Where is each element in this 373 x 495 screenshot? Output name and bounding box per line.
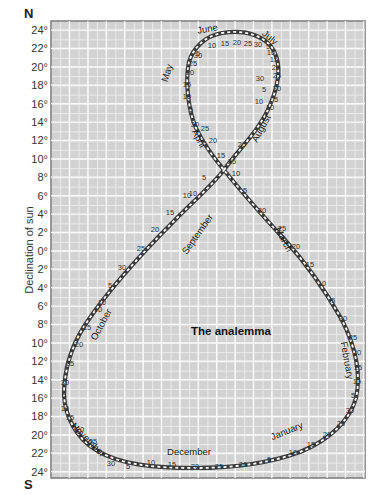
y-tick-label: 18° — [22, 79, 48, 91]
day-label: 20 — [323, 430, 331, 439]
day-label: 5 — [202, 173, 206, 182]
south-label: S — [24, 477, 33, 492]
month-label-december: December — [167, 446, 211, 457]
day-label: 5 — [243, 186, 247, 195]
day-label: 10 — [208, 41, 216, 50]
day-label: 25 — [215, 462, 223, 471]
y-tick-label: 12° — [22, 355, 48, 367]
day-label: 5 — [108, 281, 112, 290]
day-label: 25 — [66, 359, 74, 368]
day-label: 20 — [191, 462, 199, 471]
day-label: 30 — [61, 378, 69, 387]
day-label: 20 — [151, 225, 159, 234]
day-label: 25 — [337, 419, 345, 428]
day-label: 30 — [339, 314, 347, 323]
y-tick-label: 20° — [22, 429, 48, 441]
day-label: 20 — [209, 136, 217, 145]
y-tick-label: 24° — [22, 24, 48, 36]
y-tick-label: 14° — [22, 374, 48, 386]
day-label: 15 — [221, 39, 229, 48]
day-label: 5 — [274, 95, 278, 104]
y-tick-label: 10° — [22, 153, 48, 165]
day-label: 30 — [258, 206, 266, 215]
day-label: 15 — [183, 80, 191, 89]
north-label: N — [24, 6, 33, 21]
analemma-figure: 5101520253030252015105305101520253051030… — [0, 0, 373, 495]
day-label: 10 — [255, 97, 263, 106]
day-label: 15 — [306, 260, 314, 269]
day-label: 30 — [239, 460, 247, 469]
day-label: 30 — [273, 84, 281, 93]
day-label: 10 — [183, 92, 191, 101]
y-tick-label: 2° — [22, 263, 48, 275]
day-label: 25 — [228, 157, 236, 166]
y-tick-label: 8° — [22, 171, 48, 183]
day-label: 25 — [244, 39, 252, 48]
y-tick-label: 16° — [22, 98, 48, 110]
day-label: 5 — [267, 455, 271, 464]
day-label: 25 — [273, 71, 281, 80]
day-label: 10 — [147, 458, 155, 467]
y-tick-label: 12° — [22, 134, 48, 146]
y-tick-label: 8° — [22, 318, 48, 330]
day-label: 5 — [331, 296, 335, 305]
day-label: 10 — [289, 448, 297, 457]
day-label: 15 — [217, 151, 225, 160]
day-label: 20 — [75, 340, 83, 349]
y-tick-label: 2° — [22, 226, 48, 238]
y-tick-label: 24° — [22, 466, 48, 478]
day-label: 25 — [189, 59, 197, 68]
y-tick-label: 16° — [22, 392, 48, 404]
day-label: 5 — [262, 85, 266, 94]
day-label: 15 — [307, 440, 315, 449]
day-label: 10 — [232, 169, 240, 178]
day-label: 5 — [126, 462, 130, 471]
day-label: 20 — [186, 68, 194, 77]
day-label: 30 — [107, 459, 115, 468]
plot-area — [51, 21, 365, 478]
day-label: 5 — [351, 391, 355, 400]
day-label: 15 — [166, 208, 174, 217]
day-label: 20 — [238, 140, 246, 149]
y-tick-label: 20° — [22, 61, 48, 73]
day-label: 30 — [118, 263, 126, 272]
figure-title: The analemma — [191, 325, 271, 337]
day-label: 10 — [61, 404, 69, 413]
y-tick-label: 6° — [22, 190, 48, 202]
y-tick-label: 14° — [22, 116, 48, 128]
y-tick-label: 18° — [22, 410, 48, 422]
y-tick-label: 6° — [22, 300, 48, 312]
day-label: 25 — [137, 244, 145, 253]
day-label: 10 — [318, 279, 326, 288]
day-label: 30 — [254, 40, 262, 49]
day-label: 15 — [66, 413, 74, 422]
day-label: 20 — [233, 38, 241, 47]
day-label: 5 — [62, 391, 66, 400]
y-tick-label: 4° — [22, 282, 48, 294]
y-tick-label: 22° — [22, 447, 48, 459]
y-tick-label: 22° — [22, 42, 48, 54]
day-label: 30 — [256, 74, 264, 83]
day-label: 5 — [189, 105, 193, 114]
day-label: 20 — [353, 348, 361, 357]
y-tick-label: 0° — [22, 245, 48, 257]
y-tick-label: 10° — [22, 337, 48, 349]
day-label: 15 — [168, 460, 176, 469]
day-label: 10 — [189, 189, 197, 198]
analemma-chart: 5101520253030252015105305101520253051030… — [0, 0, 373, 495]
y-tick-label: 4° — [22, 208, 48, 220]
day-label: 15 — [83, 323, 91, 332]
day-label: 10 — [266, 103, 274, 112]
day-label: 30 — [346, 406, 354, 415]
